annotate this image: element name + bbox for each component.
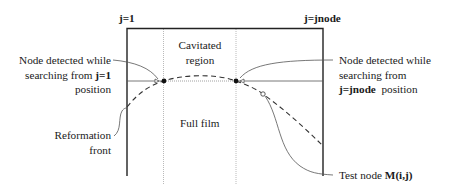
annotation-test-node: Test node M(i,j) <box>339 168 412 183</box>
annotation-right-line3-text: position <box>381 83 417 95</box>
detected-node-right <box>234 79 239 84</box>
annotation-left-line2-bold: j=1 <box>95 69 111 81</box>
test-node-marker <box>261 92 265 96</box>
region-label-cavitated: Cavitated region <box>170 38 230 67</box>
annotation-right-line3-bold: j=jnode <box>339 83 376 95</box>
annotation-right-line2: searching from <box>339 68 431 83</box>
annotation-right-node: Node detected while searching from j=jno… <box>339 53 431 97</box>
annotation-left-line3: position <box>19 82 111 97</box>
annotation-left-line2: searching from j=1 <box>19 68 111 83</box>
region-label-cavitated-line2: region <box>170 53 230 68</box>
annotation-left-line2-text: searching from <box>25 69 95 81</box>
region-label-full-film: Full film <box>180 116 219 131</box>
annotation-reformation-line1: Reformation <box>54 128 111 143</box>
column-label-jnode: j=jnode <box>304 11 341 26</box>
annotation-reformation-line2: front <box>54 143 111 158</box>
detected-node-left <box>162 79 167 84</box>
column-label-j1: j=1 <box>119 11 135 26</box>
cavitation-boundary-curve <box>127 76 323 146</box>
annotation-test-node-text: Test node <box>339 169 385 181</box>
leader-reformation-front <box>114 108 127 136</box>
annotation-test-node-bold: M(i,j) <box>385 169 413 181</box>
annotation-left-node: Node detected while searching from j=1 p… <box>19 53 111 97</box>
leader-right-node <box>240 60 333 78</box>
region-label-cavitated-line1: Cavitated <box>170 38 230 53</box>
annotation-reformation-front: Reformation front <box>54 128 111 157</box>
leader-left-node <box>113 60 158 79</box>
arrowhead-left-icon <box>155 79 159 83</box>
annotation-right-line1: Node detected while <box>339 53 431 68</box>
annotation-left-line1: Node detected while <box>19 53 111 68</box>
annotation-right-line3: j=jnode position <box>339 82 431 97</box>
